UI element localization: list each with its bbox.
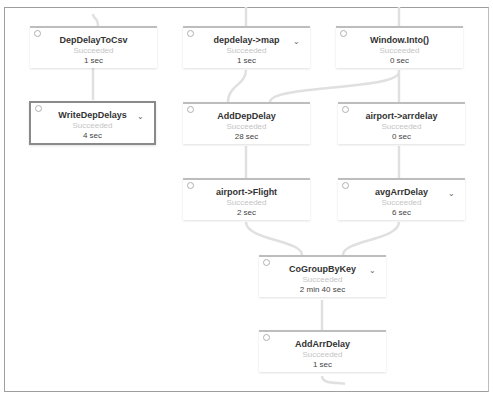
chevron-down-icon[interactable]: ⌄ — [293, 37, 300, 46]
node-avgarrdelay[interactable]: ⌄ avgArrDelay Succeeded 6 sec — [338, 178, 465, 220]
node-status: Succeeded — [183, 46, 310, 56]
node-status: Succeeded — [259, 350, 386, 360]
node-depdelaytocsv[interactable]: DepDelayToCsv Succeeded 1 sec — [30, 26, 157, 68]
node-title: depdelay->map — [183, 35, 310, 46]
node-duration: 2 sec — [183, 208, 310, 218]
node-status: Succeeded — [30, 46, 157, 56]
node-airport-flight[interactable]: airport->Flight Succeeded 2 sec — [183, 178, 310, 220]
check-circle-icon — [342, 106, 349, 113]
node-duration: 0 sec — [338, 132, 465, 142]
node-duration: 2 min 40 sec — [259, 285, 386, 295]
node-duration: 1 sec — [30, 56, 157, 66]
chevron-down-icon[interactable]: ⌄ — [137, 112, 144, 121]
node-duration: 0 sec — [336, 56, 463, 66]
node-status: Succeeded — [183, 122, 310, 132]
check-circle-icon — [340, 30, 347, 37]
node-title: airport->Flight — [183, 187, 310, 198]
check-circle-icon — [263, 334, 270, 341]
node-adddepdelay[interactable]: AddDepDelay Succeeded 28 sec — [183, 102, 310, 144]
node-title: Window.Into() — [336, 35, 463, 46]
node-title: AddArrDelay — [259, 339, 386, 350]
check-circle-icon — [342, 182, 349, 189]
check-circle-icon — [34, 30, 41, 37]
node-addarrdelay[interactable]: AddArrDelay Succeeded 1 sec — [259, 330, 386, 372]
node-status: Succeeded — [338, 122, 465, 132]
node-depdelay-map[interactable]: ⌄ depdelay->map Succeeded 1 sec — [183, 26, 310, 68]
node-writedepdelays[interactable]: ⌄ WriteDepDelays Succeeded 4 sec — [29, 101, 156, 145]
node-duration: 6 sec — [338, 208, 465, 218]
check-circle-icon — [35, 105, 42, 112]
node-title: avgArrDelay — [338, 187, 465, 198]
node-duration: 4 sec — [31, 131, 154, 141]
node-title: AddDepDelay — [183, 111, 310, 122]
check-circle-icon — [187, 106, 194, 113]
node-duration: 1 sec — [259, 360, 386, 370]
node-window-into[interactable]: Window.Into() Succeeded 0 sec — [336, 26, 463, 68]
node-status: Succeeded — [338, 198, 465, 208]
node-title: CoGroupByKey — [259, 264, 386, 275]
node-duration: 1 sec — [183, 56, 310, 66]
node-title: DepDelayToCsv — [30, 35, 157, 46]
node-status: Succeeded — [31, 121, 154, 131]
check-circle-icon — [187, 182, 194, 189]
node-title: WriteDepDelays — [31, 110, 154, 121]
node-status: Succeeded — [259, 275, 386, 285]
check-circle-icon — [263, 259, 270, 266]
check-circle-icon — [187, 30, 194, 37]
node-status: Succeeded — [183, 198, 310, 208]
node-duration: 28 sec — [183, 132, 310, 142]
node-status: Succeeded — [336, 46, 463, 56]
node-title: airport->arrdelay — [338, 111, 465, 122]
chevron-down-icon[interactable]: ⌄ — [369, 266, 376, 275]
chevron-down-icon[interactable]: ⌄ — [448, 189, 455, 198]
node-cogroupbykey[interactable]: ⌄ CoGroupByKey Succeeded 2 min 40 sec — [259, 255, 386, 297]
node-airport-arrdelay[interactable]: airport->arrdelay Succeeded 0 sec — [338, 102, 465, 144]
